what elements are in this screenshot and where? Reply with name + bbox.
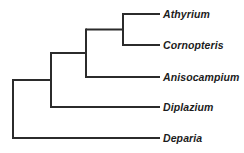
cladogram-figure: Athyrium Cornopteris Anisocampium Diplaz…: [0, 0, 244, 153]
taxon-label-athyrium: Athyrium: [163, 9, 210, 20]
taxon-label-cornopteris: Cornopteris: [163, 40, 224, 51]
taxon-label-anisocampium: Anisocampium: [163, 72, 239, 83]
tree-branch-group: [13, 13, 160, 139]
taxon-label-deparia: Deparia: [163, 133, 202, 144]
taxon-label-diplazium: Diplazium: [163, 102, 214, 113]
